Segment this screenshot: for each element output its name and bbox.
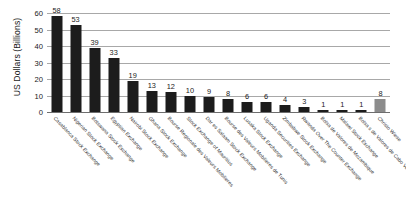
bar[interactable]	[108, 58, 119, 112]
bar[interactable]	[165, 92, 176, 112]
bar-slot: 8	[219, 13, 238, 112]
bar-slot: 39	[85, 13, 104, 112]
bar-slot: 12	[161, 13, 180, 112]
bar-slot: 1	[352, 13, 371, 112]
bar-value-label: 6	[264, 92, 268, 101]
bar-slot: 3	[295, 13, 314, 112]
bar-value-label: 10	[186, 86, 194, 95]
bar-slot: 1	[314, 13, 333, 112]
bar-slot: 6	[257, 13, 276, 112]
bars-layer: 58533933191312109866431118	[47, 13, 390, 112]
bar-chart: US Dollars (Billions) 0102030405060 5853…	[0, 0, 406, 223]
bar-value-label: 3	[302, 97, 306, 106]
bar-slot: 19	[123, 13, 142, 112]
bar-value-label: 8	[226, 89, 230, 98]
y-tick-label: 10	[35, 91, 43, 100]
bar-slot: 33	[104, 13, 123, 112]
x-axis-labels: Casablanca Stock ExchangeNigerian Stock …	[47, 113, 390, 223]
bar[interactable]	[356, 110, 367, 112]
bar-value-label: 1	[340, 100, 344, 109]
bar-slot: 53	[66, 13, 85, 112]
y-axis-title: US Dollars (Billions)	[12, 2, 22, 112]
bar-value-label: 6	[245, 92, 249, 101]
bar[interactable]	[89, 48, 100, 112]
plot-area: 0102030405060 58533933191312109866431118	[47, 13, 390, 112]
y-tick-label: 0	[39, 108, 43, 117]
bar-value-label: 1	[359, 100, 363, 109]
bar[interactable]	[223, 99, 234, 112]
bar-value-label: 8	[378, 89, 382, 98]
bar[interactable]	[261, 102, 272, 112]
bar-value-label: 58	[52, 6, 60, 15]
bar-value-label: 12	[167, 82, 175, 91]
bar-value-label: 4	[283, 95, 287, 104]
bar-value-label: 19	[129, 71, 137, 80]
bar-value-label: 13	[148, 81, 156, 90]
bar[interactable]	[299, 107, 310, 112]
y-tick-label: 50	[35, 25, 43, 34]
bar-slot: 13	[142, 13, 161, 112]
y-tick-label: 40	[35, 42, 43, 51]
bar[interactable]	[280, 105, 291, 112]
bar[interactable]	[184, 96, 195, 113]
bar[interactable]	[70, 25, 81, 112]
bar[interactable]	[318, 110, 329, 112]
bar[interactable]	[146, 91, 157, 112]
bar-slot: 8	[371, 13, 390, 112]
bar-value-label: 33	[110, 48, 118, 57]
bar-slot: 10	[180, 13, 199, 112]
bar-value-label: 9	[207, 87, 211, 96]
y-tick-label: 20	[35, 75, 43, 84]
bar-value-label: 53	[71, 15, 79, 24]
bar[interactable]	[242, 102, 253, 112]
bar-value-label: 39	[91, 38, 99, 47]
bar[interactable]	[51, 16, 62, 112]
bar-slot: 58	[47, 13, 66, 112]
bar-slot: 6	[238, 13, 257, 112]
bar-slot: 1	[333, 13, 352, 112]
bar[interactable]	[127, 81, 138, 112]
y-tick-label: 30	[35, 58, 43, 67]
bar-slot: 9	[199, 13, 218, 112]
bar[interactable]	[375, 99, 386, 112]
bar[interactable]	[337, 110, 348, 112]
bar-value-label: 1	[321, 100, 325, 109]
y-tick-label: 60	[35, 9, 43, 18]
bar[interactable]	[203, 97, 214, 112]
bar-slot: 4	[276, 13, 295, 112]
